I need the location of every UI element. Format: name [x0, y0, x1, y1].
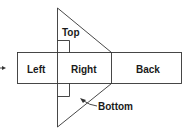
right-angle-marker-bottom	[58, 84, 70, 97]
bottom-leader-line	[84, 101, 97, 106]
arrow-icon	[2, 66, 6, 70]
right-angle-marker-top	[58, 41, 70, 53]
label-left: Left	[27, 64, 46, 75]
label-right: Right	[71, 64, 97, 75]
label-bottom: Bottom	[98, 101, 133, 112]
label-back: Back	[136, 64, 160, 75]
label-top: Top	[62, 27, 80, 38]
prism-net-diagram: Top Left Right Back Bottom	[0, 0, 192, 139]
